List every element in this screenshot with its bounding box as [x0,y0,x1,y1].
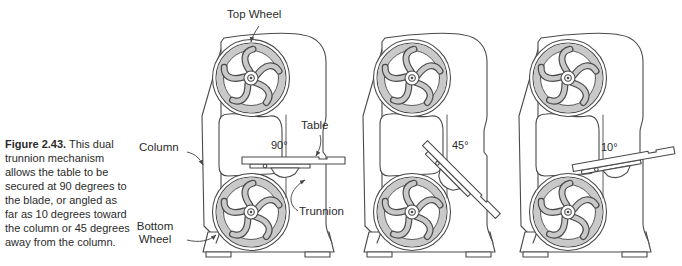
figure-2-43: Figure 2.43. This dual trunnion mechanis… [0,0,682,266]
figure-number: Figure 2.43. [5,138,66,150]
angle-10-label: 10° [601,141,618,153]
bandsaw-machine-2 [363,33,500,257]
angle-45-label: 45° [452,139,469,151]
bottom-wheel-label: Bottom Wheel [124,220,186,246]
top-wheel-label: Top Wheel [227,8,281,21]
caption-line: the blade, or angled as [5,193,167,207]
table-label: Table [301,119,329,132]
trunnion-label: Trunnion [299,205,344,218]
caption-line: allows the table to be [5,165,167,179]
caption-line: far as 10 degrees toward [5,207,167,221]
column-label: Column [139,141,179,154]
bandsaw-machine-3 [519,33,677,257]
column-leader [187,152,203,165]
angle-90-label: 90° [271,139,288,151]
caption-line: secured at 90 degrees to [5,179,167,193]
